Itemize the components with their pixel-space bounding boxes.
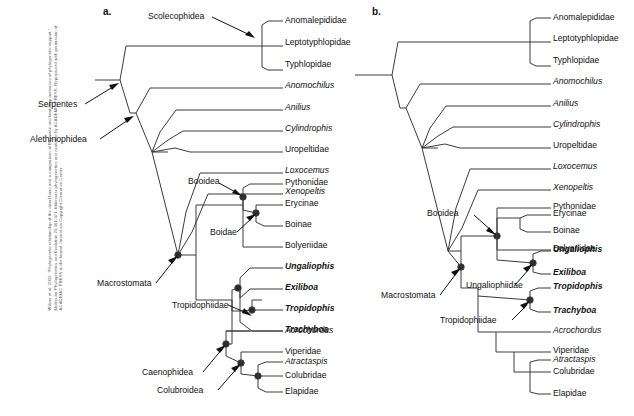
tip-label: Colubridae — [553, 367, 595, 376]
tip-label: Xenopeltis — [553, 183, 593, 192]
tip-label: Acrochordus — [553, 326, 601, 335]
pointer-booidea-b — [474, 215, 496, 235]
tip-label: Typhlopidae — [553, 56, 599, 65]
panel-b-tree — [0, 0, 634, 416]
tip-label: Boinae — [553, 226, 580, 235]
tip-label: Leptotyphlopidae — [553, 34, 618, 43]
tip-label: Trachyboa — [553, 306, 596, 315]
tip-label: Anomalepididae — [553, 13, 615, 22]
clade-label-booidea-b: Booidea — [427, 208, 459, 218]
tip-label: Exiliboa — [553, 268, 586, 277]
pointer-tropidophiidae-b — [512, 301, 530, 320]
clade-label-ungaliophiidae-b: Ungaliophiidae — [466, 280, 523, 290]
tip-label: Anilius — [553, 99, 578, 108]
tip-label: Atractaspis — [553, 355, 596, 364]
clade-label-macrostomata-b: Macrostomata — [381, 290, 435, 300]
phylogeny-figure: Wilcox et al. 2002. "Phylogenetic relati… — [0, 0, 634, 416]
tip-label: Loxocemus — [553, 162, 597, 171]
tip-label: Uropeltidae — [553, 141, 597, 150]
tip-label: Tropidophis — [553, 282, 603, 291]
tip-label: Anomochilus — [553, 77, 602, 86]
tip-label: Ungaliophis — [553, 245, 602, 254]
tip-label: Cylindrophis — [553, 120, 600, 129]
clade-label-tropidophiidae-b: Tropidophiidae — [440, 315, 497, 325]
tip-label: Elapidae — [553, 389, 586, 398]
tip-label: Erycinae — [553, 209, 586, 218]
pointer-macrostomata-b — [440, 268, 461, 295]
